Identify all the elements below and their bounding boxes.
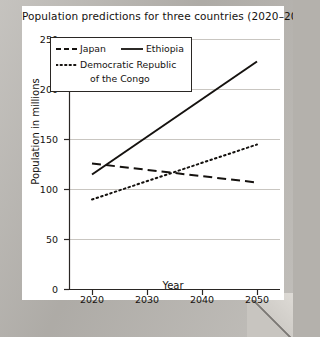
legend-label-japan: Japan: [80, 43, 106, 54]
series-line-drc: [92, 145, 257, 200]
legend-label-drc-line2: of the Congo: [90, 73, 150, 84]
chart-legend: Japan Ethiopia Democratic Republic of th…: [50, 37, 192, 92]
legend-swatch-japan: [56, 47, 78, 51]
x-axis-ticks: [93, 290, 258, 296]
legend-label-drc-line1: Democratic Republic: [80, 59, 176, 70]
legend-swatch-drc: [56, 63, 78, 67]
legend-label-ethiopia: Ethiopia: [146, 43, 184, 54]
legend-swatch-ethiopia: [121, 47, 143, 51]
figure-card: Population predictions for three countri…: [22, 6, 284, 300]
line-chart: Population predictions for three countri…: [22, 6, 284, 300]
